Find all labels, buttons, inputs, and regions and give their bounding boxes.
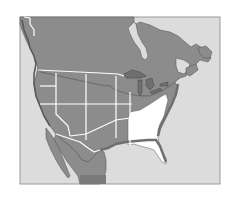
map-svg <box>0 0 227 197</box>
lake-michigan <box>138 80 142 96</box>
mexico-southern-band <box>80 175 106 184</box>
map-figure: North America regional map Southeastern … <box>0 0 227 197</box>
